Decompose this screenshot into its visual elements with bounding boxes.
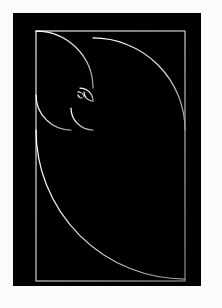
plate-background <box>13 13 201 286</box>
fibonacci-spiral-svg <box>0 0 222 308</box>
fibonacci-artwork: Fibonacci Golden Spiral <box>0 0 222 308</box>
